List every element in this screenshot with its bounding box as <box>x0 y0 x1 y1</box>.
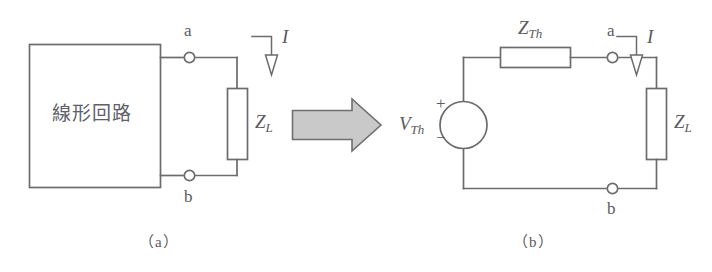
impedance-label-zth: ZTh <box>518 18 542 40</box>
caption-panel-b: （b） <box>513 235 554 250</box>
voltage-source-vth <box>440 102 487 149</box>
terminal-node-a-panel-b <box>607 52 617 62</box>
source-vth-sub: Th <box>411 122 425 137</box>
terminal-node-a-panel-a <box>184 52 194 62</box>
thevenin-equivalent-figure: 線形回路 a b ZL I （a） ZTh a b VTh + − ZL I （… <box>0 0 712 272</box>
terminal-label-b-panel-a: b <box>184 188 193 205</box>
source-label-vth: VTh <box>399 114 424 136</box>
impedance-zth-body <box>501 48 571 68</box>
current-arrow-hook-a <box>252 37 272 57</box>
impedance-label-zl-panel-b: ZL <box>674 112 692 134</box>
impedance-zl-sub-a: L <box>266 120 273 135</box>
impedance-label-zl-panel-a: ZL <box>255 112 273 134</box>
terminal-label-b-panel-b: b <box>607 200 616 217</box>
terminal-node-b-panel-b <box>607 183 617 193</box>
impedance-zth-sub: Th <box>529 26 543 41</box>
current-arrow-hook-b <box>617 37 637 57</box>
source-minus-sign: − <box>436 129 446 146</box>
impedance-zth-base: Z <box>518 17 529 38</box>
current-arrow-head-b <box>631 55 643 75</box>
linear-circuit-block-label: 線形回路 <box>52 104 132 123</box>
terminal-node-b-panel-a <box>184 170 194 180</box>
current-arrow-head-a <box>266 55 278 75</box>
impedance-zl-sub-b: L <box>685 120 692 135</box>
terminal-label-a-panel-a: a <box>184 22 192 39</box>
caption-panel-a: （a） <box>139 235 179 250</box>
impedance-zl-base-b: Z <box>674 111 685 132</box>
current-label-i-panel-b: I <box>647 27 653 46</box>
source-vth-base: V <box>399 113 411 134</box>
terminal-label-a-panel-b: a <box>607 22 615 39</box>
impedance-zl-body-a <box>228 89 248 160</box>
transition-block-arrow <box>293 99 382 151</box>
impedance-zl-body-b <box>647 89 667 160</box>
circuit-diagram-canvas <box>0 0 712 272</box>
current-label-i-panel-a: I <box>282 27 288 46</box>
impedance-zl-base-a: Z <box>255 111 266 132</box>
source-plus-sign: + <box>436 95 446 112</box>
